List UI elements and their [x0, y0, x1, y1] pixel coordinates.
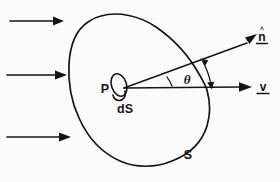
surface-element-label: dS [117, 102, 133, 116]
flow-arrow-top [10, 17, 64, 26]
diagram-canvas: ^ n v θ P dS S [0, 0, 280, 182]
surface-element-ellipse [108, 72, 129, 101]
velocity-vector-label: v [257, 80, 269, 94]
closed-surface-outline [69, 14, 210, 166]
surface-label: S [184, 148, 192, 162]
normal-vector-label: ^ n [257, 26, 268, 44]
theta-label: θ [184, 72, 191, 87]
flow-arrow-middle [7, 70, 67, 79]
normal-vector-letter: n [258, 30, 265, 44]
flow-arrow-bottom [7, 132, 71, 141]
point-P-label: P [101, 82, 109, 96]
figure-container: ^ n v θ P dS S [0, 0, 280, 182]
velocity-vector-letter: v [260, 80, 267, 94]
flow-arrows-group [7, 17, 71, 142]
